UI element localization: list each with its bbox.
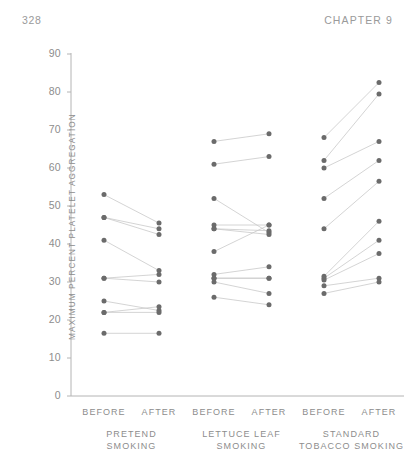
paired-connector-line <box>214 198 269 232</box>
data-point <box>377 219 382 224</box>
paired-connector-line <box>324 282 379 293</box>
data-point <box>157 221 162 226</box>
data-point <box>102 276 107 281</box>
plot-canvas <box>0 0 411 457</box>
y-tick-label: 10 <box>35 351 61 363</box>
group-label: LETTUCE LEAFSMOKING <box>202 428 281 452</box>
paired-connector-line <box>214 297 269 305</box>
group-label-line2: TOBACCO SMOKING <box>299 440 404 452</box>
data-point <box>212 280 217 285</box>
data-point <box>212 196 217 201</box>
group-label-line2: SMOKING <box>106 440 156 452</box>
data-point <box>267 154 272 159</box>
data-point <box>102 331 107 336</box>
data-point <box>212 249 217 254</box>
data-point <box>377 238 382 243</box>
group-label-line1: STANDARD <box>299 428 404 440</box>
data-point <box>157 232 162 237</box>
paired-connector-line <box>324 160 379 198</box>
data-point <box>212 295 217 300</box>
condition-label: BEFORE <box>192 407 235 417</box>
paired-connector-line <box>324 278 379 286</box>
paired-connector-line <box>214 157 269 165</box>
y-tick-label: 40 <box>35 237 61 249</box>
data-point <box>102 238 107 243</box>
data-point <box>267 232 272 237</box>
data-point <box>322 158 327 163</box>
paired-connector-line <box>324 141 379 168</box>
figure-page: 328 CHAPTER 9 MAXIMUM PERCENT PLATELET A… <box>0 0 411 457</box>
paired-connector-line <box>104 274 159 278</box>
group-label: STANDARDTOBACCO SMOKING <box>299 428 404 452</box>
data-point <box>267 131 272 136</box>
paired-connector-line <box>104 240 159 270</box>
data-point <box>377 251 382 256</box>
condition-label: AFTER <box>362 407 397 417</box>
paired-connector-line <box>324 240 379 278</box>
data-point <box>377 158 382 163</box>
data-point <box>322 291 327 296</box>
data-point <box>102 299 107 304</box>
y-axis-title: MAXIMUM PERCENT PLATELET AGGREGATION <box>68 82 77 372</box>
data-point <box>157 272 162 277</box>
y-tick-label: 20 <box>35 313 61 325</box>
condition-label: BEFORE <box>302 407 345 417</box>
data-point <box>267 302 272 307</box>
data-point <box>212 226 217 231</box>
condition-label: BEFORE <box>82 407 125 417</box>
y-tick-label: 50 <box>35 199 61 211</box>
y-tick-label: 30 <box>35 275 61 287</box>
group-label-line1: LETTUCE LEAF <box>202 428 281 440</box>
data-point <box>157 304 162 309</box>
condition-label: AFTER <box>252 407 287 417</box>
data-point <box>377 80 382 85</box>
data-point <box>322 283 327 288</box>
paired-connector-line <box>104 278 159 282</box>
data-point <box>267 264 272 269</box>
data-point <box>322 226 327 231</box>
y-tick-label: 90 <box>35 47 61 59</box>
data-point <box>157 331 162 336</box>
data-point <box>267 291 272 296</box>
paired-connector-line <box>104 301 159 311</box>
data-series-group <box>102 80 382 336</box>
group-label-line2: SMOKING <box>202 440 281 452</box>
data-point <box>377 139 382 144</box>
paired-connector-line <box>214 267 269 275</box>
y-tick-label: 80 <box>35 85 61 97</box>
data-point <box>322 135 327 140</box>
data-point <box>377 179 382 184</box>
data-point <box>212 139 217 144</box>
paired-connector-line <box>324 181 379 229</box>
data-point <box>377 91 382 96</box>
data-point <box>157 280 162 285</box>
data-point <box>322 196 327 201</box>
group-label-line1: PRETEND <box>106 428 156 440</box>
group-label: PRETENDSMOKING <box>106 428 156 452</box>
data-point <box>322 166 327 171</box>
data-point <box>157 226 162 231</box>
data-point <box>102 215 107 220</box>
paired-connector-line <box>324 83 379 138</box>
paired-connector-line <box>324 94 379 160</box>
y-tick-label: 70 <box>35 123 61 135</box>
y-tick-label: 60 <box>35 161 61 173</box>
paired-connector-line <box>104 307 159 313</box>
data-point <box>102 192 107 197</box>
data-point <box>267 223 272 228</box>
data-point <box>102 310 107 315</box>
scatter-plot-figure: MAXIMUM PERCENT PLATELET AGGREGATION 010… <box>0 0 411 457</box>
data-point <box>267 276 272 281</box>
data-point <box>157 310 162 315</box>
data-point <box>377 280 382 285</box>
data-point <box>212 162 217 167</box>
axis-group <box>67 53 404 396</box>
paired-connector-line <box>214 134 269 142</box>
y-tick-label: 0 <box>35 389 61 401</box>
paired-connector-line <box>104 217 159 234</box>
data-point <box>322 278 327 283</box>
paired-connector-line <box>214 282 269 293</box>
condition-label: AFTER <box>142 407 177 417</box>
paired-connector-line <box>324 221 379 276</box>
paired-connector-line <box>324 254 379 281</box>
